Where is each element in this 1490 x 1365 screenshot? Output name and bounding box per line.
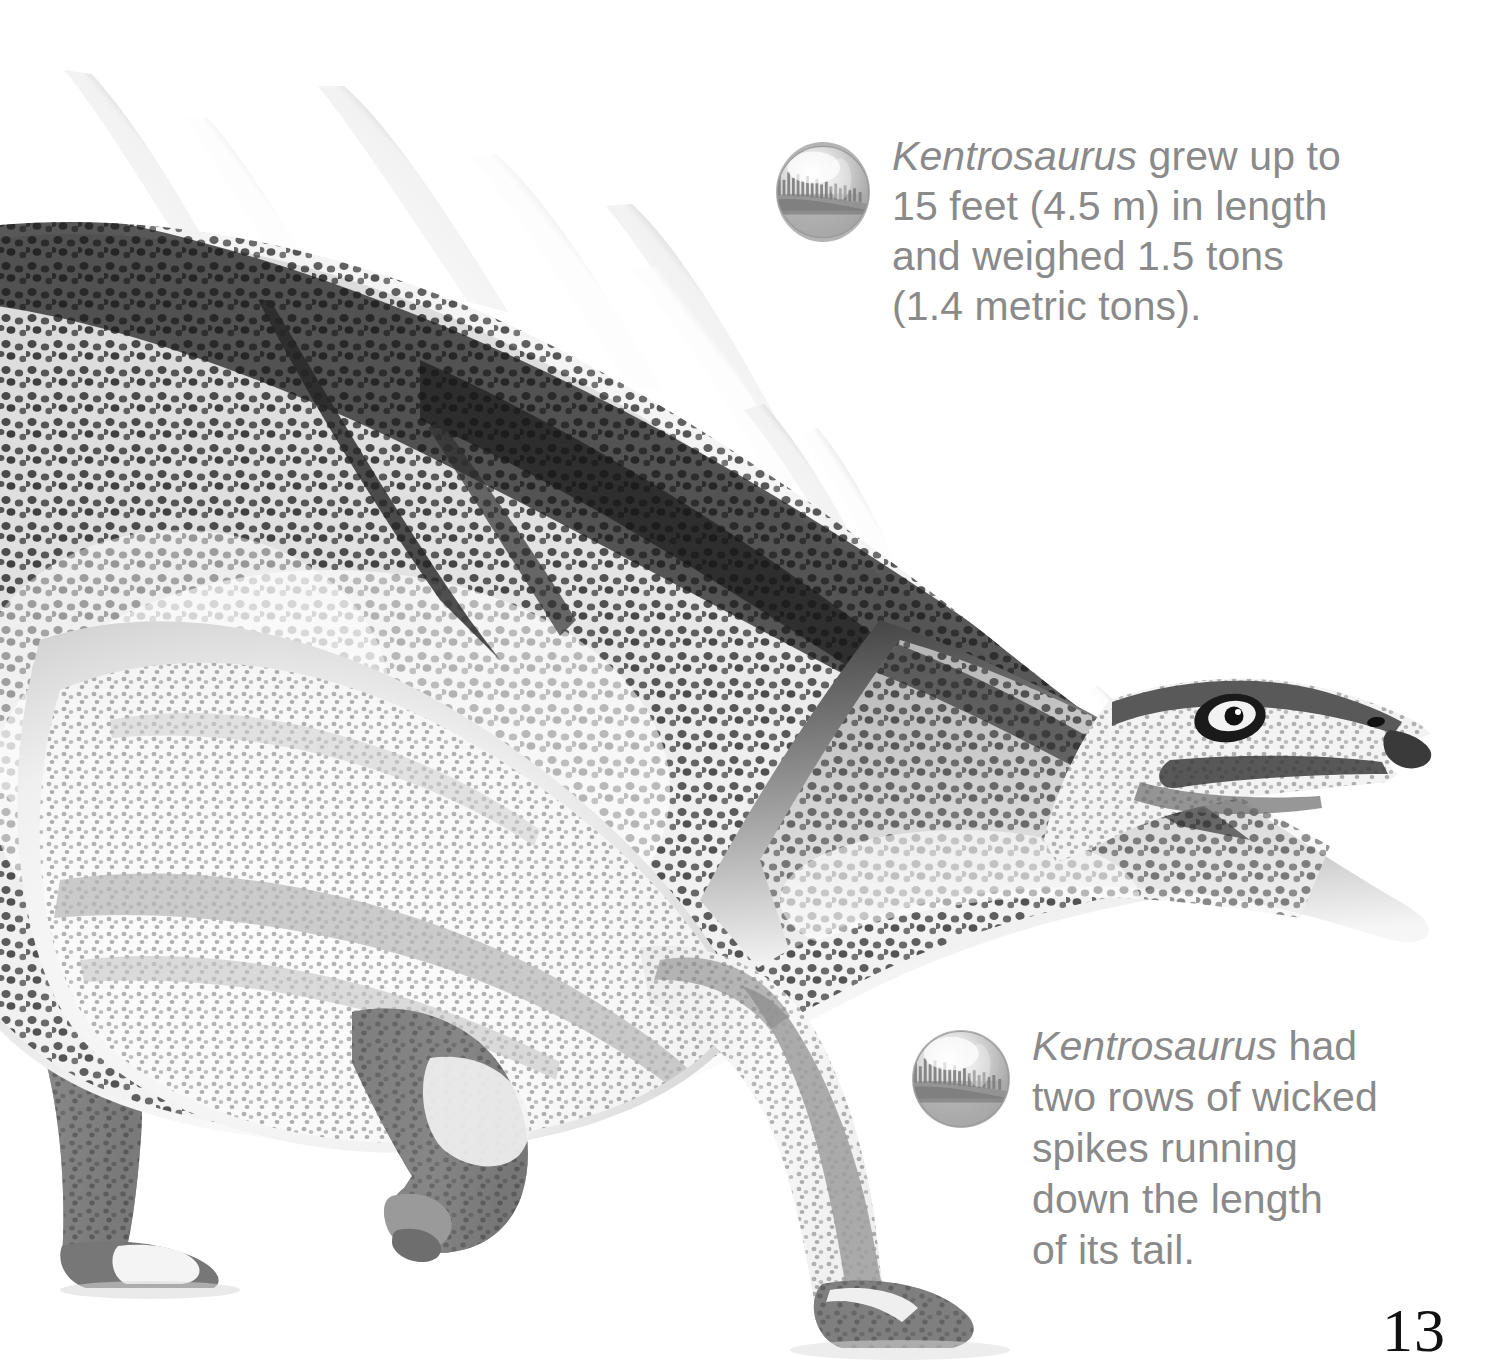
caption-line: spikes running (1032, 1123, 1378, 1174)
spike-11 (1020, 672, 1098, 758)
neck-shape (700, 620, 1429, 968)
lower-jaw-shadow (1134, 782, 1322, 814)
hind-leg-far-shape (0, 897, 142, 1258)
spike-4 (470, 154, 664, 392)
front-leg-near-crease (654, 957, 790, 1030)
hind-leg-far-texture (0, 897, 142, 1258)
spike-12 (1086, 686, 1156, 760)
flank-highlight (0, 570, 670, 1010)
front-leg-far (352, 1009, 530, 1262)
belly-group (0, 600, 820, 1200)
book-page: Black and white illustration of a Kentro… (0, 0, 1490, 1365)
eye-pupil (1225, 707, 1244, 726)
spike-9 (868, 560, 964, 690)
caption-line: 15 feet (4.5 m) in length (892, 181, 1341, 231)
caption-length: Kentrosaurus grew up to 15 feet (4.5 m) … (776, 131, 1456, 331)
sphere-landscape-icon (776, 142, 870, 242)
nostril (1366, 716, 1385, 728)
front-foot-near (814, 1280, 974, 1348)
hind-leg-far (0, 897, 219, 1288)
ground-shadow-rear (60, 1281, 240, 1299)
neck-top-shadow (850, 630, 1250, 840)
spike-5 (606, 204, 792, 448)
eye-white (1206, 697, 1258, 734)
spike-10 (944, 644, 1028, 746)
brow-shadow (1112, 681, 1402, 734)
caption-line: two rows of wicked (1032, 1072, 1378, 1123)
hind-leg-near (430, 1004, 620, 1290)
head-texture (1044, 679, 1430, 862)
head-shape (1044, 679, 1430, 862)
spike-3 (318, 86, 508, 312)
caption-spikes: Kentrosaurus had two rows of wicked spik… (912, 1021, 1472, 1276)
belly-shape (17, 621, 748, 1153)
hind-leg-near-shape (430, 1004, 620, 1290)
caption-line: (1.4 metric tons). (892, 281, 1341, 331)
shoulder-highlight (0, 530, 390, 870)
jaw-line (1159, 756, 1388, 788)
caption-line-rest: grew up to (1137, 133, 1341, 179)
page-number: 13 (1382, 1299, 1446, 1361)
neck-texture-clip (700, 600, 1460, 1000)
belly-texture-clip (0, 600, 820, 1200)
belly-fold-3 (110, 713, 540, 846)
beak-tip (1383, 730, 1431, 768)
belly-fold-1 (54, 873, 724, 1126)
shoulder-crease (258, 300, 500, 660)
eye-glint (1235, 709, 1241, 715)
caption-line: Kentrosaurus grew up to (892, 131, 1341, 181)
caption-line-rest: had (1277, 1023, 1357, 1069)
belly-fold-2 (80, 956, 560, 1080)
front-leg-near-texture (640, 946, 890, 1326)
front-leg-far-texture (352, 1009, 528, 1253)
front-claw-far (392, 1229, 441, 1262)
front-claw-near (826, 1288, 918, 1322)
caption-length-text: Kentrosaurus grew up to 15 feet (4.5 m) … (892, 131, 1341, 331)
throat-highlight (780, 830, 1140, 970)
hind-foot-far (60, 1241, 218, 1288)
neck-head-group (700, 600, 1460, 1000)
caption-line: down the length (1032, 1174, 1378, 1225)
front-leg-far-highlight (423, 1057, 530, 1167)
genus-name: Kentrosaurus (1032, 1023, 1277, 1069)
spike-7 (744, 404, 874, 580)
spike-8 (800, 428, 906, 588)
ground-shadow-front (790, 1340, 1010, 1360)
sphere-landscape-icon (912, 1030, 1010, 1128)
front-leg-near-shape (640, 946, 890, 1326)
caption-spikes-text: Kentrosaurus had two rows of wicked spik… (1032, 1021, 1378, 1276)
genus-name: Kentrosaurus (892, 133, 1137, 179)
belly-scale-texture (0, 600, 820, 1200)
front-leg-far-shape (352, 1009, 528, 1253)
front-foot-near-texture (814, 1280, 974, 1348)
caption-line: Kentrosaurus had (1032, 1021, 1378, 1072)
shoulder-crease-2 (428, 420, 576, 636)
hind-claw-far (112, 1245, 199, 1284)
front-foot-far (384, 1194, 452, 1250)
front-leg-near-shadow (742, 986, 890, 1324)
spike-2 (186, 118, 340, 322)
spike-1 (64, 70, 232, 292)
eye-socket (1191, 689, 1270, 748)
body-shape (0, 234, 1248, 1143)
back-ridge-shadow (420, 360, 980, 720)
caption-line: and weighed 1.5 tons (892, 231, 1341, 281)
head-group (1044, 679, 1431, 862)
caption-line: of its tail. (1032, 1225, 1378, 1276)
neck-scale-texture (700, 600, 1460, 1000)
